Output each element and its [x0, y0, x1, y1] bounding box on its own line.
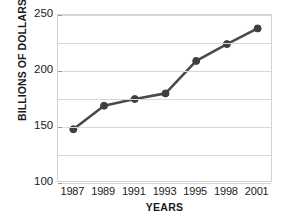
y-axis-tick-labels: 250200150100 — [4, 14, 53, 182]
gridline — [58, 15, 271, 16]
gridline — [58, 155, 271, 156]
x-tick-label: 1998 — [209, 185, 243, 198]
gridline — [58, 71, 271, 72]
x-tick-label: 2001 — [240, 185, 274, 198]
data-point-marker — [162, 90, 169, 97]
chart-title — [57, 0, 272, 2]
x-tick-label: 1993 — [148, 185, 182, 198]
x-axis-tick-labels: 1987198919911993199519982001 — [57, 185, 272, 199]
y-tick-mark — [58, 15, 62, 16]
data-point-marker — [254, 25, 261, 32]
x-axis-title: YEARS — [57, 201, 272, 213]
x-tick-label: 1987 — [55, 185, 89, 198]
x-tick-label: 1989 — [86, 185, 120, 198]
y-tick-mark — [58, 71, 62, 72]
gridline — [58, 43, 271, 44]
y-tick-label: 100 — [9, 176, 53, 187]
plot-area — [57, 14, 272, 182]
line-chart: BILLIONS OF DOLLARS 250200150100 1987198… — [0, 0, 287, 219]
y-tick-mark — [58, 127, 62, 128]
y-tick-label: 150 — [9, 120, 53, 131]
x-tick-label: 1991 — [117, 185, 151, 198]
y-tick-mark — [58, 183, 62, 184]
x-tick-label: 1995 — [178, 185, 212, 198]
y-tick-label: 200 — [9, 64, 53, 75]
gridline — [58, 127, 271, 128]
gridline — [58, 99, 271, 100]
gridline — [58, 183, 271, 184]
data-point-marker — [101, 102, 108, 109]
data-point-marker — [193, 57, 200, 64]
y-tick-label: 250 — [9, 8, 53, 19]
